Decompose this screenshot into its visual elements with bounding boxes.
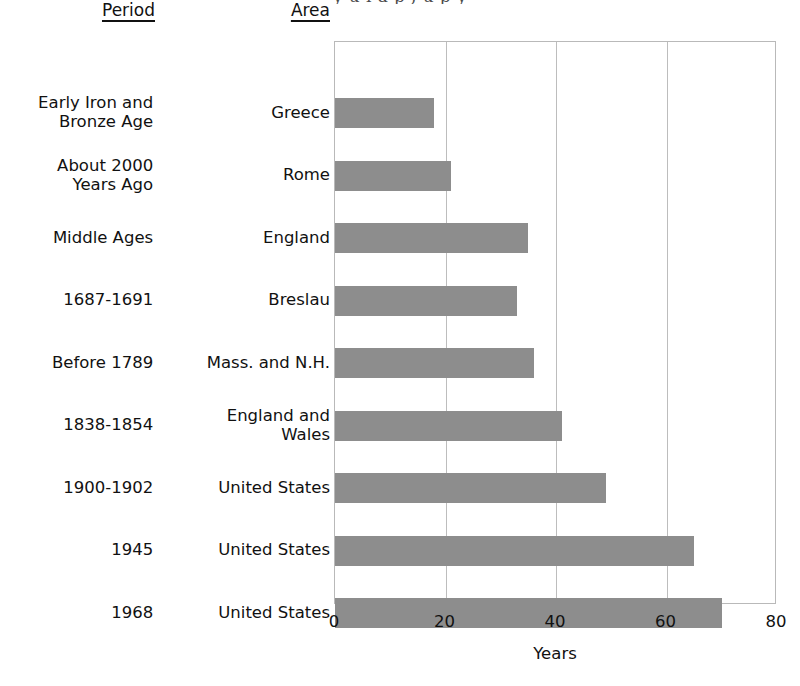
row-area-label: Greece [153,103,334,122]
row-period-label: Before 1789 [0,353,153,372]
column-header-period: Period [0,0,155,20]
bar [335,411,562,441]
row-area-label: England andWales [153,406,334,444]
row-area-label: Rome [153,165,334,184]
row-label-column: Early Iron andBronze AgeGreeceAbout 2000… [0,41,334,604]
table-row: 1838-1854England andWales [0,410,334,440]
row-area-label: United States [153,478,334,497]
column-header-area: Area [155,0,334,20]
bar [335,161,451,191]
x-tick-20: 20 [415,612,475,631]
table-row: About 2000Years AgoRome [0,160,334,190]
gridline-20 [446,42,447,603]
table-row: 1687-1691Breslau [0,285,334,315]
bar [335,223,528,253]
bar [335,473,606,503]
row-area-label: England [153,228,334,247]
row-area-label: Mass. and N.H. [153,353,334,372]
table-row: 1945United States [0,535,334,565]
row-period-label: Middle Ages [0,228,153,247]
bar [335,536,694,566]
row-period-label: 1838-1854 [0,415,153,434]
table-row: Middle AgesEngland [0,222,334,252]
bar [335,286,517,316]
plot-area [334,41,776,604]
x-axis-title: Years [334,644,776,663]
x-tick-0: 0 [304,612,364,631]
x-tick-60: 60 [636,612,696,631]
x-tick-80: 80 [746,612,800,631]
row-period-label: 1968 [0,603,153,622]
row-period-label: 1945 [0,540,153,559]
bar [335,348,534,378]
row-period-label: About 2000Years Ago [0,156,153,194]
row-period-label: 1900-1902 [0,478,153,497]
x-tick-40: 40 [525,612,585,631]
row-area-label: Breslau [153,290,334,309]
gridline-40 [556,42,557,603]
table-row: 1968United States [0,597,334,627]
row-area-label: United States [153,540,334,559]
table-row: 1900-1902United States [0,472,334,502]
row-period-label: 1687-1691 [0,290,153,309]
table-row: Early Iron andBronze AgeGreece [0,97,334,127]
row-period-label: Early Iron andBronze Age [0,93,153,131]
bar [335,98,434,128]
gridline-60 [667,42,668,603]
table-row: Before 1789Mass. and N.H. [0,347,334,377]
